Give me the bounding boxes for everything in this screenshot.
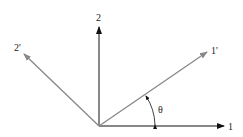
- rotated-axes-diagram: 1 2 1' 2' θ: [0, 0, 243, 137]
- axis-2-label: 2: [96, 12, 101, 23]
- angle-arc: [146, 96, 155, 125]
- axis-1-prime-label: 1': [211, 45, 218, 56]
- axis-1-label: 1: [228, 121, 233, 132]
- axis-2-prime: [24, 54, 99, 126]
- axis-2-prime-label: 2': [14, 42, 21, 53]
- theta-label: θ: [158, 104, 163, 115]
- axis-1-prime: [99, 52, 207, 126]
